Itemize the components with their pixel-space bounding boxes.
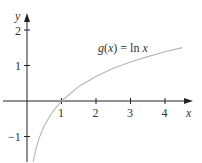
x-tick-label-2: 2 — [93, 106, 99, 120]
x-tick-label-3: 3 — [127, 106, 133, 120]
y-tick-label-1: 1 — [15, 59, 21, 73]
x-axis-arrow-icon — [184, 98, 193, 104]
y-tick-label-neg1: −1 — [8, 130, 21, 144]
ln-curve — [33, 48, 182, 162]
ln-chart: 1 2 3 4 2 1 −1 x y g(x) = ln x — [0, 0, 202, 163]
y-axis-arrow-icon — [24, 13, 30, 22]
y-tick-label-2: 2 — [15, 24, 21, 38]
function-annotation: g(x) = ln x — [98, 41, 148, 55]
x-axis-label: x — [185, 106, 192, 120]
y-axis-label: y — [14, 9, 21, 23]
x-tick-label-1: 1 — [58, 106, 64, 120]
x-tick-label-4: 4 — [162, 106, 168, 120]
